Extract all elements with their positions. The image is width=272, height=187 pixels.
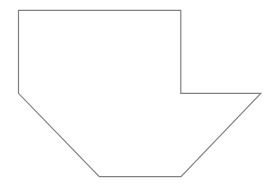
polygon-shape [19, 10, 261, 176]
diagram-canvas [0, 0, 272, 187]
diagram-svg [0, 0, 272, 187]
